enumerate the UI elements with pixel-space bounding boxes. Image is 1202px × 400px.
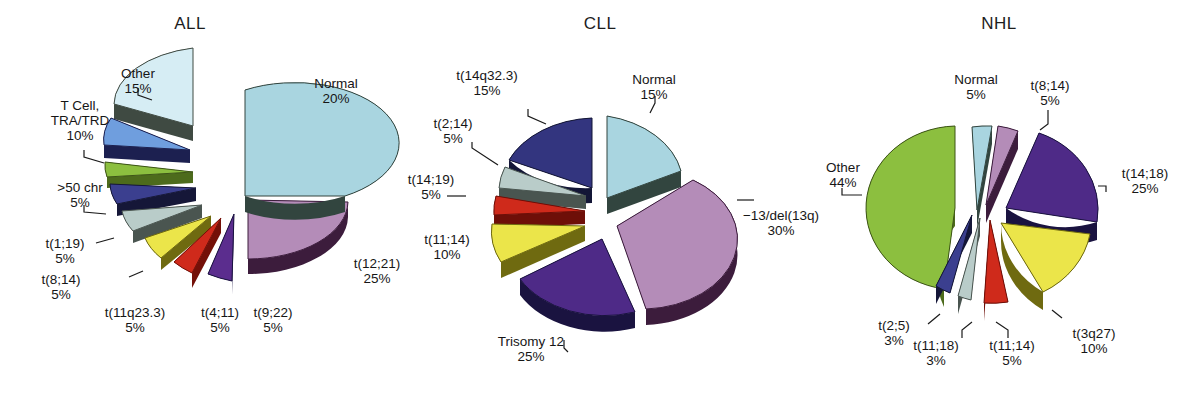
label-all-tcell-name2: TRA/TRD	[36, 113, 124, 128]
label-nhl-t14-18-name: t(14;18)	[1122, 166, 1169, 181]
label-all-normal: Normal 20%	[300, 76, 372, 106]
slice-nhl-t11-14	[984, 220, 1008, 321]
label-cll-t2-14-pct: 5%	[418, 131, 488, 146]
label-nhl-other: Other 44%	[808, 160, 878, 190]
label-all-t9-22-name: t(9;22)	[253, 305, 292, 320]
label-nhl-t8-14-pct: 5%	[1016, 93, 1084, 108]
label-cll-t14q323-pct: 15%	[432, 83, 542, 98]
label-cll-t14-19: t(14;19) 5%	[392, 172, 470, 202]
slice-nhl-t3q27	[1001, 223, 1090, 310]
label-cll-t14q323-name: t(14q32.3)	[456, 68, 518, 83]
label-cll-trisomy12-name: Trisomy 12	[498, 334, 564, 349]
label-nhl-t11-14: t(11;14) 5%	[976, 338, 1048, 368]
label-nhl-t11-18-pct: 3%	[898, 353, 974, 368]
label-nhl-t14-18: t(14;18) 25%	[1106, 166, 1184, 196]
label-all-t8-14-name: t(8;14)	[41, 272, 80, 287]
label-all-t1-19: t(1;19) 5%	[32, 236, 98, 266]
pie-slices-nhl	[866, 126, 1098, 321]
pie-slices-cll	[491, 116, 737, 332]
label-nhl-t2-5: t(2;5) 3%	[862, 318, 926, 348]
label-cll-t2-14: t(2;14) 5%	[418, 116, 488, 146]
label-cll-trisomy12: Trisomy 12 25%	[482, 334, 580, 364]
label-all-t4-11-name: t(4;11)	[201, 305, 239, 320]
label-cll-t14-19-name: t(14;19)	[408, 172, 455, 187]
label-all-t11q233-pct: 5%	[88, 320, 182, 335]
label-all-other-pct: 15%	[106, 81, 170, 96]
label-nhl-other-name: Other	[826, 160, 860, 175]
label-cll-t11-14-name: t(11;14)	[424, 232, 470, 247]
label-nhl-other-pct: 44%	[808, 175, 878, 190]
label-nhl-t8-14-name: t(8;14)	[1030, 78, 1069, 93]
label-all-chr50: >50 chr 5%	[44, 180, 116, 210]
label-all-chr50-pct: 5%	[44, 195, 116, 210]
label-nhl-normal: Normal 5%	[940, 72, 1012, 102]
label-cll-t2-14-name: t(2;14)	[433, 116, 472, 131]
label-cll-normal: Normal 15%	[618, 72, 690, 102]
label-all-tcell: T Cell, TRA/TRD 10%	[36, 98, 124, 143]
label-nhl-t2-5-name: t(2;5)	[878, 318, 910, 333]
panel-cll: CLL	[400, 0, 800, 400]
label-cll-t11-14: t(11;14) 10%	[408, 232, 486, 262]
pie-chart-figure: ALL	[0, 0, 1202, 400]
label-all-other: Other 15%	[106, 66, 170, 96]
label-cll-normal-pct: 15%	[618, 87, 690, 102]
label-cll-t14-19-pct: 5%	[392, 187, 470, 202]
label-nhl-t3q27-pct: 10%	[1056, 341, 1132, 356]
label-cll-trisomy12-pct: 25%	[482, 349, 580, 364]
label-nhl-t3q27-name: t(3q27)	[1073, 326, 1116, 341]
panel-all: ALL	[0, 0, 400, 400]
label-all-t8-14: t(8;14) 5%	[28, 272, 94, 302]
label-nhl-t3q27: t(3q27) 10%	[1056, 326, 1132, 356]
label-all-t1-19-pct: 5%	[32, 251, 98, 266]
label-all-normal-pct: 20%	[300, 91, 372, 106]
label-cll-t14q323: t(14q32.3) 15%	[432, 68, 542, 98]
label-all-t1-19-name: t(1;19)	[45, 236, 84, 251]
label-all-tcell-pct: 10%	[36, 128, 124, 143]
label-all-tcell-name: T Cell,	[61, 98, 100, 113]
label-all-t12-21-name: t(12;21)	[354, 256, 401, 271]
label-all-t11q233-name: t(11q23.3)	[105, 305, 166, 320]
label-nhl-t11-14-name: t(11;14)	[989, 338, 1035, 353]
label-all-t9-22: t(9;22) 5%	[240, 305, 306, 335]
label-nhl-t2-5-pct: 3%	[862, 333, 926, 348]
label-all-normal-name: Normal	[314, 76, 358, 91]
label-nhl-t8-14: t(8;14) 5%	[1016, 78, 1084, 108]
label-all-t9-22-pct: 5%	[240, 320, 306, 335]
label-all-t8-14-pct: 5%	[28, 287, 94, 302]
label-all-t11q233: t(11q23.3) 5%	[88, 305, 182, 335]
label-cll-t11-14-pct: 10%	[408, 247, 486, 262]
label-all-other-name: Other	[121, 66, 155, 81]
label-cll-normal-name: Normal	[632, 72, 676, 87]
label-nhl-t14-18-pct: 25%	[1106, 181, 1184, 196]
panel-nhl: NHL	[800, 0, 1202, 400]
label-nhl-normal-name: Normal	[954, 72, 998, 87]
label-all-chr50-name: >50 chr	[57, 180, 102, 195]
label-nhl-t11-14-pct: 5%	[976, 353, 1048, 368]
label-nhl-normal-pct: 5%	[940, 87, 1012, 102]
